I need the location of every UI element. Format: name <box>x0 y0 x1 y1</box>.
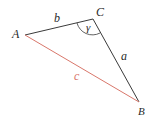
side-a <box>93 19 139 102</box>
triangle-svg: A C B b a c γ <box>0 0 148 124</box>
angle-label-gamma: γ <box>86 21 91 33</box>
vertex-label-a: A <box>11 27 20 41</box>
vertex-label-c: C <box>96 5 105 19</box>
side-label-b: b <box>54 11 60 25</box>
triangle-diagram: A C B b a c γ <box>0 0 148 124</box>
vertex-label-b: B <box>138 105 145 117</box>
side-label-c: c <box>74 69 80 83</box>
side-label-a: a <box>121 49 127 63</box>
side-c <box>25 35 139 102</box>
